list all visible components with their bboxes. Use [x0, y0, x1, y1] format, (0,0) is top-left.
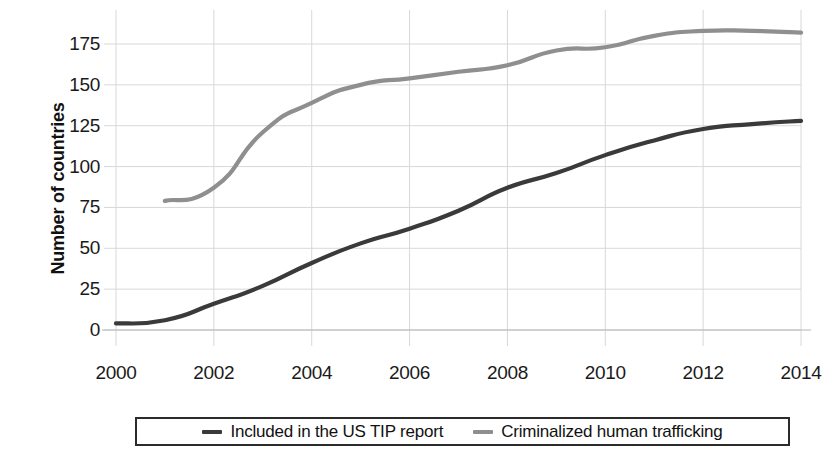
x-tick-label: 2014: [780, 362, 821, 384]
x-tick-label: 2010: [585, 362, 626, 384]
chart-container: Number of countries 1751501251007550250 …: [0, 0, 836, 455]
x-tick-label: 2002: [193, 362, 234, 384]
legend-swatch-dark: [202, 430, 222, 434]
x-tick-label: 2004: [291, 362, 332, 384]
legend-item-criminalized[interactable]: Criminalized human trafficking: [473, 422, 722, 442]
x-tick-label: 2008: [487, 362, 528, 384]
x-tick-label: 2006: [389, 362, 430, 384]
legend-label-criminalized: Criminalized human trafficking: [501, 422, 722, 442]
series-line-criminalized: [165, 30, 801, 201]
chart-legend: Included in the US TIP report Criminaliz…: [135, 417, 790, 446]
legend-label-tip-report: Included in the US TIP report: [230, 422, 443, 442]
legend-swatch-light: [473, 430, 493, 434]
plot-area: [0, 0, 836, 455]
x-tick-label: 2000: [95, 362, 136, 384]
legend-item-tip-report[interactable]: Included in the US TIP report: [202, 422, 443, 442]
x-tick-label: 2012: [683, 362, 724, 384]
series-line-tip-report: [116, 121, 801, 324]
